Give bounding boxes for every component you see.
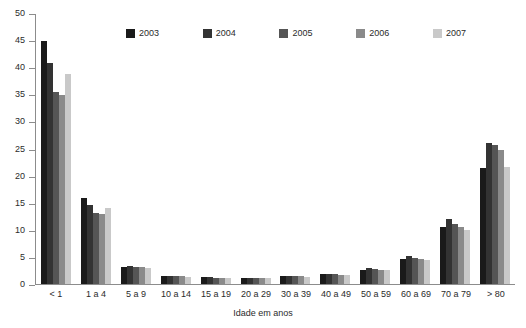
bar-group (475, 14, 515, 284)
bar-2007 (185, 277, 191, 284)
y-axis-tick-label: 5 (20, 252, 25, 262)
bar-group (395, 14, 435, 284)
y-axis-tick-label: 25 (15, 144, 25, 154)
bar-group (355, 14, 395, 284)
y-axis-tick: 45 (29, 41, 35, 42)
x-axis-label: 40 a 49 (316, 289, 356, 299)
y-axis-tick: 10 (29, 231, 35, 232)
bar-2007 (65, 74, 71, 284)
bar-2007 (145, 268, 151, 284)
bar-group (116, 14, 156, 284)
y-axis-tick: 15 (29, 204, 35, 205)
bar-group (236, 14, 276, 284)
x-axis-label: 20 a 29 (236, 289, 276, 299)
bar-2007 (344, 275, 350, 284)
y-axis-tick: 30 (29, 122, 35, 123)
y-axis-tick-label: 30 (15, 116, 25, 126)
x-axis-label: 70 a 79 (436, 289, 476, 299)
bar-2007 (504, 167, 510, 284)
bar-2007 (424, 260, 430, 284)
y-axis-tick-label: 0 (20, 279, 25, 289)
x-axis-label: 15 a 19 (196, 289, 236, 299)
bar-group (196, 14, 236, 284)
bar-group (76, 14, 116, 284)
bar-2007 (384, 270, 390, 284)
y-axis-tick: 50 (29, 14, 35, 15)
x-axis-title: Idade em anos (0, 308, 526, 318)
x-axis-label: 1 a 4 (76, 289, 116, 299)
x-axis-labels: < 11 a 45 a 910 a 1415 a 1920 a 2930 a 3… (36, 289, 516, 299)
bar-2007 (265, 278, 271, 284)
y-axis-tick-label: 35 (15, 89, 25, 99)
x-axis-label: > 80 (476, 289, 516, 299)
bar-groups (36, 14, 515, 284)
y-axis-tick: 20 (29, 177, 35, 178)
y-axis-tick-label: 15 (15, 198, 25, 208)
y-axis-tick: 5 (29, 258, 35, 259)
bar-group (156, 14, 196, 284)
y-axis-tick: 35 (29, 95, 35, 96)
y-axis-tick: 40 (29, 68, 35, 69)
y-axis-tick-label: 20 (15, 171, 25, 181)
y-axis-tick-label: 10 (15, 225, 25, 235)
x-axis-line (35, 284, 515, 285)
bar-group (315, 14, 355, 284)
x-axis-label: 5 a 9 (116, 289, 156, 299)
x-axis-label: < 1 (36, 289, 76, 299)
y-axis-tick: 25 (29, 150, 35, 151)
bar-2007 (464, 230, 470, 284)
bar-chart: 20032004200520062007 5045403530252015105… (0, 0, 526, 328)
x-axis-label: 10 a 14 (156, 289, 196, 299)
bar-2007 (304, 277, 310, 284)
y-axis-tick: 0 (29, 285, 35, 286)
plot-area: 50454035302520151050 (35, 14, 515, 285)
bar-group (36, 14, 76, 284)
y-axis-tick-label: 45 (15, 35, 25, 45)
bar-2007 (105, 208, 111, 284)
bar-group (435, 14, 475, 284)
y-axis-tick-label: 40 (15, 62, 25, 72)
x-axis-label: 60 a 69 (396, 289, 436, 299)
x-axis-label: 50 a 59 (356, 289, 396, 299)
x-axis-label: 30 a 39 (276, 289, 316, 299)
y-axis-tick-label: 50 (15, 8, 25, 18)
bar-group (276, 14, 316, 284)
bar-2007 (225, 278, 231, 284)
